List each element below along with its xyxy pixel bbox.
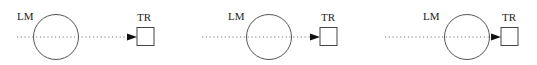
target-square	[501, 28, 518, 46]
arrowhead-icon	[491, 34, 501, 41]
landmark-circle	[445, 15, 490, 60]
label-lm: LM	[17, 10, 34, 22]
arrowhead-icon	[127, 34, 137, 41]
label-tr: TR	[502, 11, 517, 23]
label-tr: TR	[137, 11, 152, 23]
arrowhead-icon	[310, 34, 320, 41]
label-lm: LM	[423, 10, 440, 22]
target-square	[320, 28, 337, 46]
diagram-canvas: LM TR LM TR LM TR	[0, 0, 537, 65]
panel-3: LM TR	[385, 10, 518, 60]
label-lm: LM	[228, 10, 245, 22]
panel-1: LM TR	[17, 10, 154, 60]
target-square	[137, 28, 154, 46]
label-tr: TR	[321, 11, 336, 23]
panel-2: LM TR	[202, 10, 337, 60]
landmark-circle	[247, 15, 292, 60]
